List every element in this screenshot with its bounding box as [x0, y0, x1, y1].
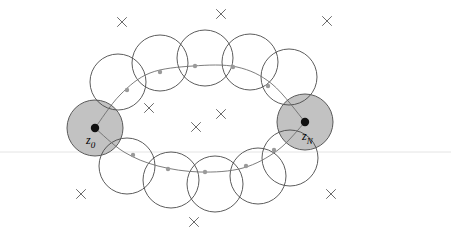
overlap-path-upper-0: [95, 65, 305, 128]
path-curve-upper: [95, 65, 305, 128]
path-node-dot-1: [158, 70, 162, 74]
cross-mark-outside-top-right: [323, 17, 332, 26]
path-curve-lower: [95, 122, 305, 172]
shaded-ball-group: [67, 30, 333, 212]
path-node-dot-4: [266, 84, 270, 88]
open-ball-top-1: [132, 35, 188, 91]
cross-mark-outside-bottom-center: [190, 218, 199, 227]
cross-mark-outside-bottom-right: [327, 190, 336, 199]
cross-mark-outside-top-center: [217, 10, 226, 19]
path-node-dot-3: [231, 65, 235, 69]
overlap-path-lower-1: [95, 122, 305, 172]
path-node-dot-6: [166, 167, 170, 171]
overlap-path-upper-1: [95, 65, 305, 128]
label-subscript-z0: 0: [91, 140, 96, 150]
path-node-dot-7: [203, 170, 207, 174]
path-curve-group: [95, 65, 305, 172]
open-ball-bottom-3: [230, 148, 286, 204]
cross-mark-inside-center: [217, 110, 226, 119]
cross-mark-outside-bottom-left: [77, 190, 86, 199]
cross-mark-inside-lower: [192, 123, 201, 132]
endpoint-dot-zN: [301, 118, 309, 126]
cross-mark-inside-left: [145, 104, 154, 113]
path-node-dot-8: [244, 164, 248, 168]
path-node-dot-9: [272, 148, 276, 152]
figure-container: z0zN: [0, 0, 451, 235]
endpoint-dot-group: [91, 118, 309, 132]
path-node-dot-0: [125, 88, 129, 92]
path-node-dot-5: [131, 153, 135, 157]
open-ball-bottom-2: [187, 156, 243, 212]
overlap-path-lower-0: [95, 122, 305, 172]
cross-mark-outside-top-left: [118, 18, 127, 27]
loop-ball-covering-diagram: z0zN: [0, 0, 451, 235]
open-ball-top-2: [177, 30, 233, 86]
label-subscript-zN: N: [306, 136, 314, 146]
node-dot-group: [125, 64, 276, 174]
endpoint-dot-z0: [91, 124, 99, 132]
path-node-dot-2: [193, 64, 197, 68]
